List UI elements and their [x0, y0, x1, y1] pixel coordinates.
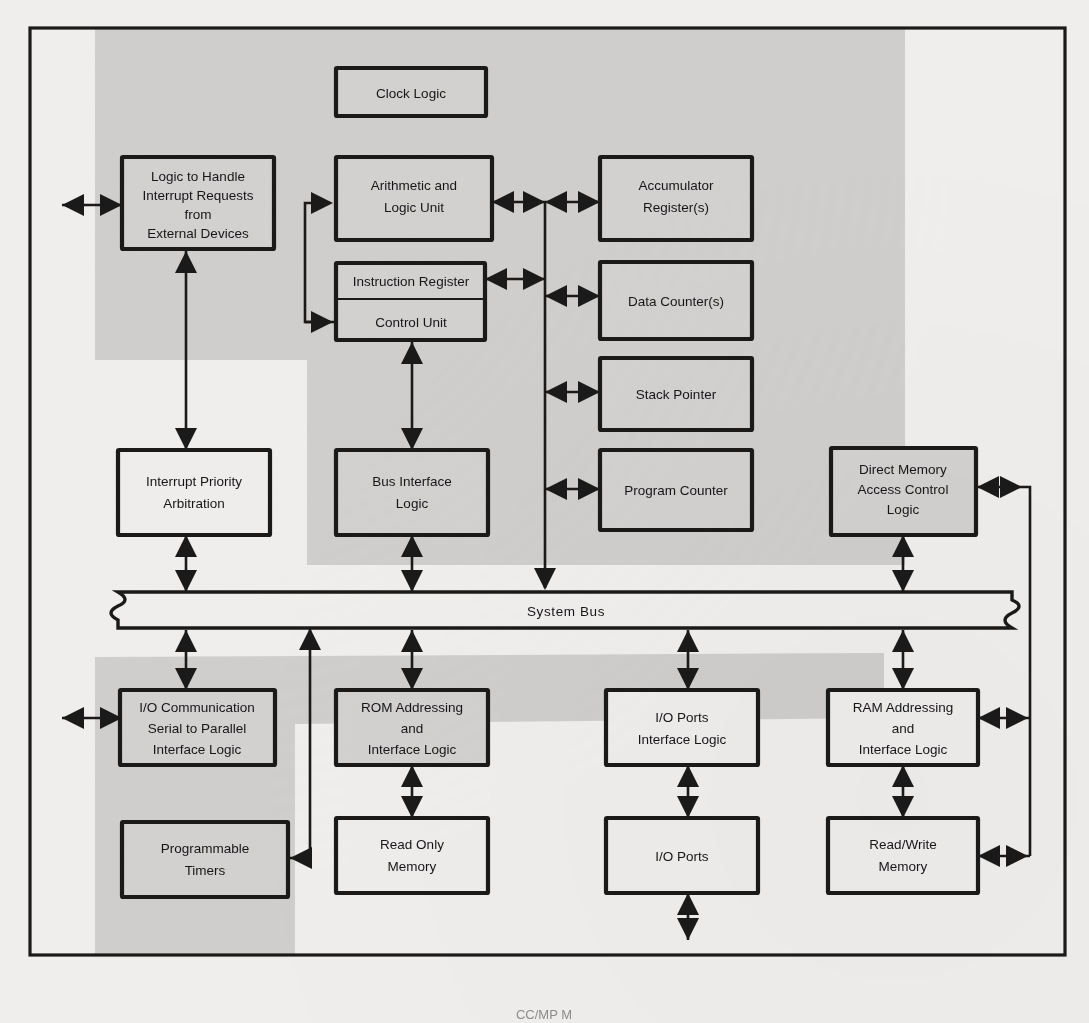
- block-rom-addressing[interactable]: ROM Addressing and Interface Logic: [336, 690, 488, 765]
- block-label: Access Control: [858, 482, 949, 497]
- block-label: Logic: [396, 496, 429, 511]
- block-label: Interface Logic: [638, 732, 727, 747]
- block-label: I/O Communication: [139, 700, 255, 715]
- block-diagram: System Bus Clock Logic Logic to Handle I…: [0, 0, 1089, 1023]
- block-label: Accumulator: [638, 178, 714, 193]
- block-read-only-memory[interactable]: Read Only Memory: [336, 818, 488, 893]
- block-label: I/O Ports: [655, 849, 709, 864]
- block-label: Bus Interface: [372, 474, 452, 489]
- block-label: ROM Addressing: [361, 700, 463, 715]
- block-label: Timers: [185, 863, 226, 878]
- block-io-communication[interactable]: I/O Communication Serial to Parallel Int…: [120, 690, 275, 765]
- block-label: Direct Memory: [859, 462, 947, 477]
- block-label: Serial to Parallel: [148, 721, 246, 736]
- block-label: I/O Ports: [655, 710, 709, 725]
- block-clock-logic[interactable]: Clock Logic: [336, 68, 486, 116]
- block-label: Interrupt Requests: [142, 188, 253, 203]
- block-label: Arbitration: [163, 496, 225, 511]
- block-label: External Devices: [147, 226, 249, 241]
- block-label: Memory: [388, 859, 437, 874]
- block-label: RAM Addressing: [853, 700, 954, 715]
- block-label: Register(s): [643, 200, 709, 215]
- block-label: Read Only: [380, 837, 444, 852]
- block-label: Clock Logic: [376, 86, 446, 101]
- block-label: from: [185, 207, 212, 222]
- block-accumulator[interactable]: Accumulator Register(s): [600, 157, 752, 240]
- block-io-ports[interactable]: I/O Ports: [606, 818, 758, 893]
- block-ram-addressing[interactable]: RAM Addressing and Interface Logic: [828, 690, 978, 765]
- block-label: Read/Write: [869, 837, 936, 852]
- block-label: Data Counter(s): [628, 294, 724, 309]
- block-label: and: [892, 721, 915, 736]
- block-programmable-timers[interactable]: Programmable Timers: [122, 822, 288, 897]
- block-interrupt-priority[interactable]: Interrupt Priority Arbitration: [118, 450, 270, 535]
- block-interrupt-handler[interactable]: Logic to Handle Interrupt Requests from …: [122, 157, 274, 249]
- block-label: Control Unit: [375, 315, 447, 330]
- block-label: Arithmetic and: [371, 178, 457, 193]
- block-label: Interface Logic: [153, 742, 242, 757]
- block-label: Programmable: [161, 841, 250, 856]
- block-label: Memory: [879, 859, 928, 874]
- block-program-counter[interactable]: Program Counter: [600, 450, 752, 530]
- block-read-write-memory[interactable]: Read/Write Memory: [828, 818, 978, 893]
- block-alu[interactable]: Arithmetic and Logic Unit: [336, 157, 492, 240]
- block-label: Logic: [887, 502, 920, 517]
- figure-canvas: System Bus Clock Logic Logic to Handle I…: [0, 0, 1089, 1023]
- block-label: Interface Logic: [368, 742, 457, 757]
- block-label: Stack Pointer: [636, 387, 717, 402]
- block-label: Program Counter: [624, 483, 728, 498]
- block-label: Interface Logic: [859, 742, 948, 757]
- block-stack-pointer[interactable]: Stack Pointer: [600, 358, 752, 430]
- block-label: Logic Unit: [384, 200, 444, 215]
- block-bus-interface[interactable]: Bus Interface Logic: [336, 450, 488, 535]
- block-data-counter[interactable]: Data Counter(s): [600, 262, 752, 339]
- block-label: Instruction Register: [353, 274, 470, 289]
- block-dma[interactable]: Direct Memory Access Control Logic: [831, 448, 976, 535]
- block-instruction-register-control-unit[interactable]: Instruction Register Control Unit: [336, 263, 485, 340]
- figure-caption: CC/MP M: [516, 1007, 572, 1022]
- block-io-ports-interface[interactable]: I/O Ports Interface Logic: [606, 690, 758, 765]
- block-label: Interrupt Priority: [146, 474, 242, 489]
- system-bus-label: System Bus: [527, 604, 605, 619]
- block-label: and: [401, 721, 424, 736]
- block-label: Logic to Handle: [151, 169, 245, 184]
